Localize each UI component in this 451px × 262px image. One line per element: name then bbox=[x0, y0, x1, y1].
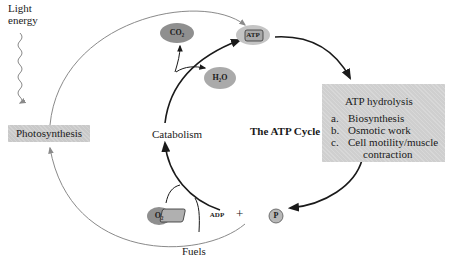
light-energy-label: Light energy bbox=[8, 2, 38, 26]
hydrolysis-heading: ATP hydrolysis bbox=[345, 95, 413, 107]
photosynthesis-box: Photosynthesis bbox=[8, 125, 90, 142]
arrow-hydrolysis-to-p bbox=[290, 160, 362, 208]
o2-input-line bbox=[166, 185, 180, 203]
o2-label: O₂ bbox=[148, 211, 170, 220]
hydrolysis-item: c.Cell motility/muscle bbox=[331, 136, 438, 148]
plus-sign: + bbox=[236, 208, 243, 220]
diagram-title: The ATP Cycle bbox=[250, 125, 320, 137]
hydrolysis-continuation: contraction bbox=[363, 148, 412, 160]
hydrolysis-item: b.Osmotic work bbox=[331, 124, 438, 136]
hydrolysis-item: a.Biosynthesis bbox=[331, 112, 438, 124]
phosphate-label: P bbox=[270, 211, 282, 220]
fuels-label: Fuels bbox=[182, 245, 206, 257]
catabolism-label: Catabolism bbox=[152, 128, 202, 140]
outer-arrow-to-photosynthesis bbox=[50, 148, 245, 247]
fuels-input-line bbox=[195, 198, 199, 232]
light-energy-squiggle bbox=[18, 33, 22, 103]
atp-label: ATP bbox=[243, 31, 263, 39]
hydrolysis-list: a.Biosynthesis b.Osmotic work c.Cell mot… bbox=[331, 112, 438, 148]
co2-label: CO₂ bbox=[165, 28, 189, 37]
adp-label: ADP bbox=[205, 211, 229, 219]
arrow-to-co2 bbox=[175, 46, 180, 72]
arrow-adp-to-catabolism bbox=[165, 143, 220, 210]
arrow-atp-to-hydrolysis bbox=[275, 37, 350, 78]
h2o-label: H₂O bbox=[208, 73, 232, 82]
atp-hydrolysis-box: ATP hydrolysis a.Biosynthesis b.Osmotic … bbox=[322, 84, 445, 162]
